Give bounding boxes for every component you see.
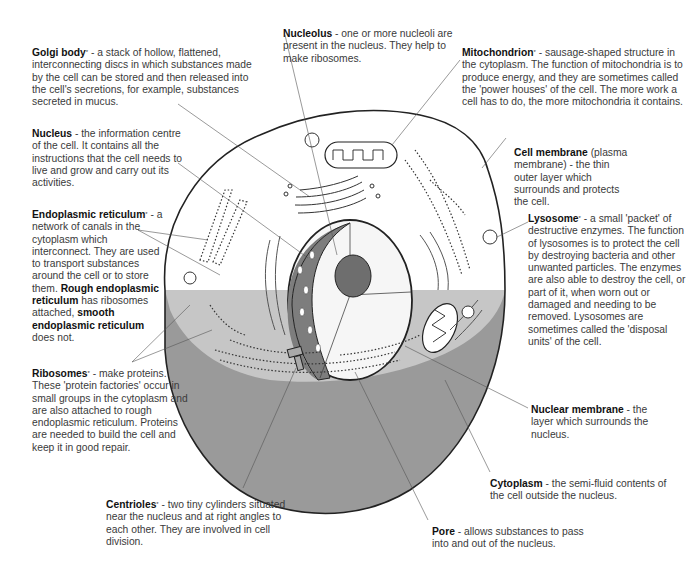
label-nucleus: Nucleus - the information centre of the … bbox=[32, 128, 182, 189]
label-nucleolus: Nucleolus - one or more nucleoli are pre… bbox=[283, 28, 453, 65]
label-lysosome: Lysosome* - a small 'packet' of destruct… bbox=[528, 213, 686, 348]
label-cell-membrane: Cell membrane (plasma membrane) - the th… bbox=[514, 147, 634, 208]
nucleolus-graphic bbox=[335, 255, 371, 297]
label-endoplasmic-reticulum: Endoplasmic reticulum* - a network of ca… bbox=[32, 209, 168, 344]
label-mitochondrion: Mitochondrion* - sausage-shaped structur… bbox=[462, 47, 686, 108]
label-pore: Pore - allows substances to pass into an… bbox=[432, 526, 602, 551]
nucleus-graphic bbox=[288, 220, 412, 380]
label-cytoplasm: Cytoplasm - the semi-fluid contents of t… bbox=[490, 478, 680, 503]
label-golgi-body: Golgi body* - a stack of hollow, flatten… bbox=[32, 47, 262, 108]
label-centrioles: Centrioles* - two tiny cylinders situate… bbox=[106, 499, 286, 548]
label-nuclear-membrane: Nuclear membrane - the layer which surro… bbox=[531, 404, 661, 441]
label-ribosomes: Ribosomes* - make proteins. These 'prote… bbox=[32, 368, 192, 454]
